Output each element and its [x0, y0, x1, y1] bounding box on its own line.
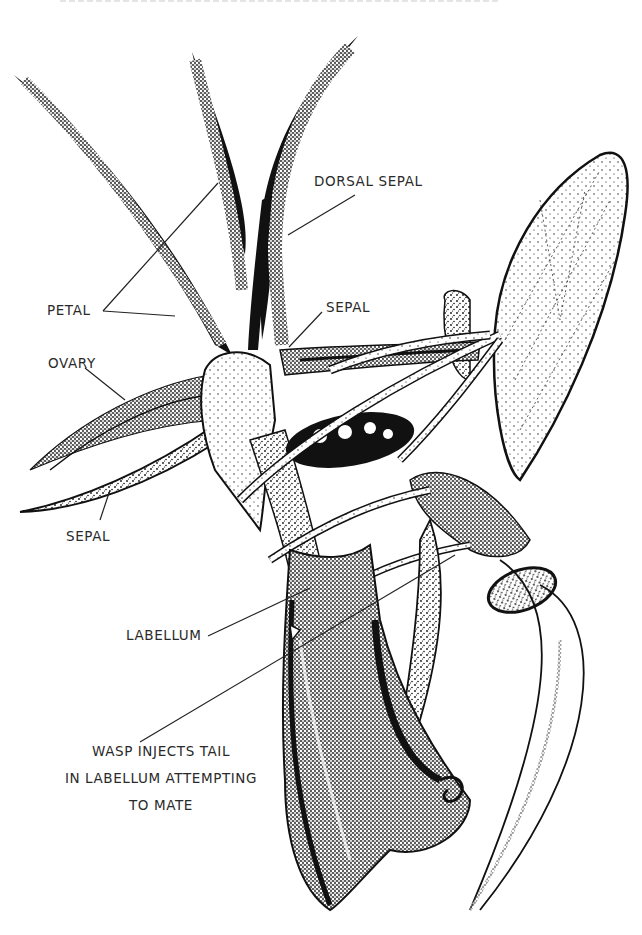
leader-sepal-upper [289, 312, 322, 347]
wasp-antennae [470, 560, 584, 910]
caption-wasp-injects-tail: WASP INJECTS TAIL IN LABELLUM ATTEMPTING… [36, 738, 286, 819]
caption-line-2: IN LABELLUM ATTEMPTING [36, 765, 286, 792]
label-labellum: LABELLUM [126, 629, 202, 643]
leader-ovary [85, 368, 125, 400]
label-sepal-lower: SEPAL [66, 530, 110, 544]
label-dorsal-sepal: DORSAL SEPAL [314, 175, 423, 189]
label-sepal-upper: SEPAL [326, 301, 370, 315]
petal-center [192, 52, 246, 290]
labellum [283, 545, 470, 910]
caption-line-1: WASP INJECTS TAIL [36, 738, 286, 765]
label-petal: PETAL [47, 304, 91, 318]
caption-line-3: TO MATE [36, 792, 286, 819]
wasp-wing [444, 153, 628, 480]
leader-petal-2 [103, 311, 175, 316]
leader-petal-1 [103, 183, 218, 311]
label-ovary: OVARY [48, 357, 96, 371]
leader-dorsal-sepal [288, 195, 355, 235]
